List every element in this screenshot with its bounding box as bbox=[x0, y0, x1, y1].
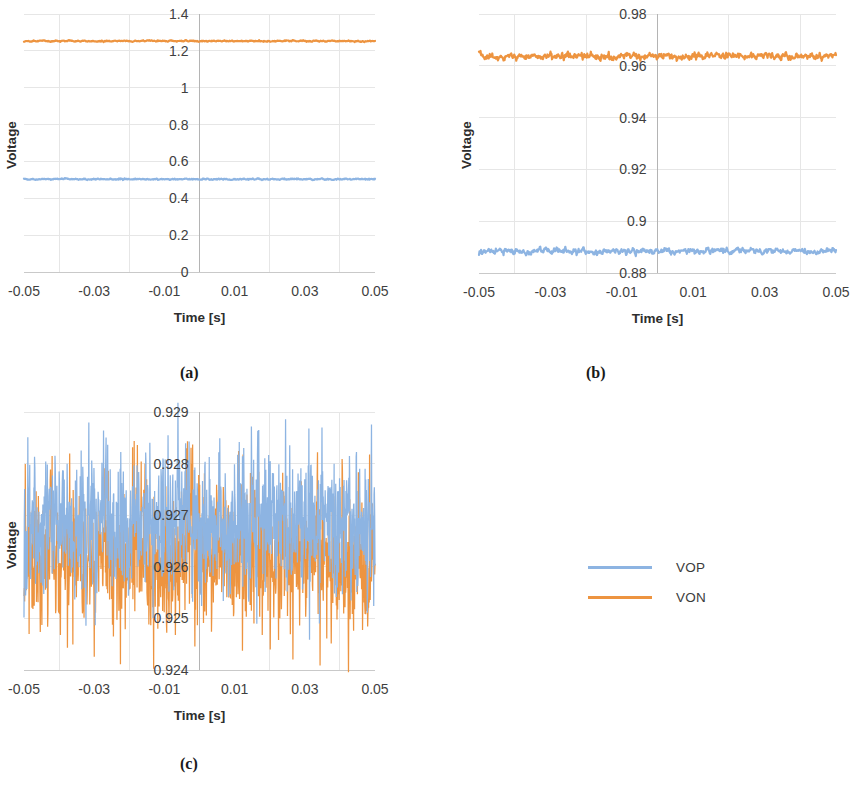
panel-caption-b: (b) bbox=[586, 364, 606, 382]
x-tick-b-0: -0.05 bbox=[463, 284, 495, 300]
y-tick-b-1: 0.9 bbox=[627, 213, 647, 229]
y-tick-labels-b: 0.880.90.920.940.960.98 bbox=[619, 6, 646, 281]
y-axis-title-b: Voltage bbox=[459, 121, 474, 169]
y-tick-c-1: 0.925 bbox=[153, 610, 188, 626]
y-tick-c-0: 0.924 bbox=[153, 662, 188, 678]
x-tick-b-4: 0.03 bbox=[751, 284, 778, 300]
x-tick-labels-a: -0.05-0.03-0.010.010.030.05 bbox=[8, 283, 389, 299]
x-tick-a-3: 0.01 bbox=[221, 283, 248, 299]
legend: VOP VON bbox=[588, 552, 778, 612]
panel-caption-a: (a) bbox=[180, 364, 199, 382]
x-tick-a-1: -0.03 bbox=[78, 283, 110, 299]
x-tick-a-5: 0.05 bbox=[361, 283, 388, 299]
x-tick-labels-b: -0.05-0.03-0.010.010.030.05 bbox=[463, 284, 850, 300]
y-tick-a-1: 0.2 bbox=[169, 227, 189, 243]
panel-caption-c: (c) bbox=[180, 755, 198, 773]
x-tick-b-1: -0.03 bbox=[534, 284, 566, 300]
y-tick-b-3: 0.94 bbox=[619, 110, 646, 126]
x-tick-c-5: 0.05 bbox=[361, 681, 388, 697]
y-tick-c-4: 0.928 bbox=[153, 456, 188, 472]
y-tick-c-2: 0.926 bbox=[153, 559, 188, 575]
y-tick-a-4: 0.8 bbox=[169, 117, 189, 133]
y-tick-b-0: 0.88 bbox=[619, 265, 646, 281]
x-tick-c-4: 0.03 bbox=[291, 681, 318, 697]
chart-panel-c: 0.9240.9250.9260.9270.9280.929-0.05-0.03… bbox=[0, 400, 430, 745]
legend-swatch-vop bbox=[588, 566, 652, 569]
y-tick-a-6: 1.2 bbox=[169, 43, 189, 59]
y-tick-a-0: 0 bbox=[181, 264, 189, 280]
chart-svg-b: 0.880.90.920.940.960.98-0.05-0.03-0.010.… bbox=[455, 0, 855, 345]
y-tick-c-3: 0.927 bbox=[153, 507, 188, 523]
x-tick-a-4: 0.03 bbox=[291, 283, 318, 299]
trace-von-a bbox=[24, 40, 375, 42]
legend-item-von: VON bbox=[588, 582, 778, 612]
y-axis-title-c: Voltage bbox=[4, 521, 19, 569]
x-tick-c-1: -0.03 bbox=[78, 681, 110, 697]
legend-swatch-von bbox=[588, 596, 652, 599]
legend-item-vop: VOP bbox=[588, 552, 778, 582]
x-tick-c-2: -0.01 bbox=[148, 681, 180, 697]
chart-panel-a: 00.20.40.60.811.21.4-0.05-0.03-0.010.010… bbox=[0, 0, 430, 345]
x-tick-a-2: -0.01 bbox=[148, 283, 180, 299]
y-tick-labels-a: 00.20.40.60.811.21.4 bbox=[169, 6, 189, 280]
x-tick-b-3: 0.01 bbox=[680, 284, 707, 300]
y-axis-title-a: Voltage bbox=[4, 121, 19, 169]
x-tick-c-3: 0.01 bbox=[221, 681, 248, 697]
y-tick-b-5: 0.98 bbox=[619, 6, 646, 22]
y-tick-a-5: 1 bbox=[181, 80, 189, 96]
x-axis-title-a: Time [s] bbox=[174, 310, 226, 325]
x-tick-b-5: 0.05 bbox=[822, 284, 849, 300]
x-axis-title-b: Time [s] bbox=[632, 311, 684, 326]
y-tick-a-3: 0.6 bbox=[169, 153, 189, 169]
chart-svg-a: 00.20.40.60.811.21.4-0.05-0.03-0.010.010… bbox=[0, 0, 430, 345]
y-tick-c-5: 0.929 bbox=[153, 404, 188, 420]
x-tick-labels-c: -0.05-0.03-0.010.010.030.05 bbox=[8, 681, 389, 697]
legend-label-von: VON bbox=[676, 590, 706, 605]
y-tick-a-2: 0.4 bbox=[169, 190, 189, 206]
y-tick-a-7: 1.4 bbox=[169, 6, 189, 22]
x-tick-c-0: -0.05 bbox=[8, 681, 40, 697]
chart-svg-c: 0.9240.9250.9260.9270.9280.929-0.05-0.03… bbox=[0, 400, 430, 745]
y-tick-b-4: 0.96 bbox=[619, 58, 646, 74]
x-tick-a-0: -0.05 bbox=[8, 283, 40, 299]
legend-label-vop: VOP bbox=[676, 560, 705, 575]
x-tick-b-2: -0.01 bbox=[606, 284, 638, 300]
figure-root: 00.20.40.60.811.21.4-0.05-0.03-0.010.010… bbox=[0, 0, 855, 786]
axes-a bbox=[24, 14, 375, 272]
y-tick-b-2: 0.92 bbox=[619, 161, 646, 177]
chart-panel-b: 0.880.90.920.940.960.98-0.05-0.03-0.010.… bbox=[455, 0, 855, 345]
axes-b bbox=[479, 14, 836, 273]
x-axis-title-c: Time [s] bbox=[174, 708, 226, 723]
